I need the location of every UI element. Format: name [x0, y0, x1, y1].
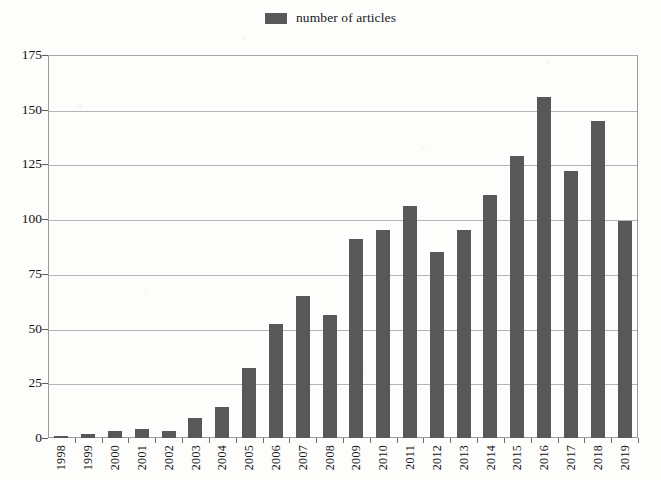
bar[interactable]: [403, 206, 417, 438]
x-tick-label: 2004: [215, 445, 230, 470]
bar-slot: [75, 55, 102, 438]
x-tick-label: 2014: [483, 445, 498, 470]
x-tick-mark: [477, 438, 478, 443]
x-tick-mark: [75, 438, 76, 443]
x-tick-mark: [638, 438, 639, 443]
bar[interactable]: [215, 407, 229, 438]
x-tick-label: 2008: [322, 445, 337, 470]
x-tick-mark: [370, 438, 371, 443]
x-tick-mark: [423, 438, 424, 443]
bar-slot: [182, 55, 209, 438]
x-tick-label: 2009: [349, 445, 364, 470]
bar-slot: [504, 55, 531, 438]
x-tick-mark: [397, 438, 398, 443]
bar-slot: [102, 55, 129, 438]
x-tick-mark: [584, 438, 585, 443]
bar-slot: [423, 55, 450, 438]
bar-slot: [397, 55, 424, 438]
y-tick-label: 50: [6, 321, 42, 337]
x-tick-mark: [289, 438, 290, 443]
bar[interactable]: [349, 239, 363, 438]
bar-slot: [477, 55, 504, 438]
legend-label: number of articles: [296, 10, 396, 26]
y-tick-mark: [42, 55, 48, 56]
y-tick-mark: [42, 438, 48, 439]
bar[interactable]: [591, 121, 605, 438]
x-tick-mark: [504, 438, 505, 443]
x-tick-mark: [450, 438, 451, 443]
bar[interactable]: [457, 230, 471, 438]
x-tick-label: 2007: [295, 445, 310, 470]
bar[interactable]: [188, 418, 202, 438]
x-tick-label: 2002: [161, 445, 176, 470]
bar[interactable]: [618, 221, 632, 438]
x-tick-mark: [558, 438, 559, 443]
bar-slot: [128, 55, 155, 438]
x-tick-mark: [128, 438, 129, 443]
x-tick-label: 2013: [456, 445, 471, 470]
x-tick-label: 2018: [590, 445, 605, 470]
bar[interactable]: [510, 156, 524, 438]
x-tick-mark: [263, 438, 264, 443]
y-tick-label: 125: [6, 156, 42, 172]
x-tick-label: 2012: [429, 445, 444, 470]
x-tick-label: 2005: [242, 445, 257, 470]
bar-slot: [316, 55, 343, 438]
bar-slot: [450, 55, 477, 438]
x-tick-mark: [611, 438, 612, 443]
x-tick-mark: [102, 438, 103, 443]
x-tick-mark: [531, 438, 532, 443]
bar-slot: [611, 55, 638, 438]
bar-slot: [289, 55, 316, 438]
bar-slot: [263, 55, 290, 438]
x-tick-label: 2011: [403, 445, 418, 470]
bar[interactable]: [537, 97, 551, 438]
bar[interactable]: [135, 429, 149, 438]
y-tick-label: 150: [6, 102, 42, 118]
bar[interactable]: [269, 324, 283, 438]
y-tick-mark: [42, 219, 48, 220]
x-tick-label: 2016: [537, 445, 552, 470]
y-tick-label: 75: [6, 266, 42, 282]
bar-slot: [531, 55, 558, 438]
bar-slot: [48, 55, 75, 438]
x-tick-label: 2010: [376, 445, 391, 470]
x-tick-mark: [155, 438, 156, 443]
x-tick-label: 2015: [510, 445, 525, 470]
y-tick-mark: [42, 274, 48, 275]
x-tick-mark: [316, 438, 317, 443]
bar-slot: [155, 55, 182, 438]
bar-slot: [236, 55, 263, 438]
bar[interactable]: [376, 230, 390, 438]
x-tick-label: 2001: [134, 445, 149, 470]
chart-legend: number of articles: [0, 10, 661, 26]
x-tick-label: 2000: [108, 445, 123, 470]
y-tick-mark: [42, 110, 48, 111]
bar[interactable]: [296, 296, 310, 438]
y-tick-label: 25: [6, 375, 42, 391]
x-tick-label: 2003: [188, 445, 203, 470]
bar-slot: [209, 55, 236, 438]
bar-slot: [343, 55, 370, 438]
legend-color-swatch: [265, 13, 287, 24]
bar[interactable]: [483, 195, 497, 438]
x-tick-label: 2019: [617, 445, 632, 470]
bar[interactable]: [242, 368, 256, 438]
x-tick-label: 1998: [54, 445, 69, 470]
bar-slot: [370, 55, 397, 438]
y-tick-mark: [42, 329, 48, 330]
x-tick-label: 1999: [81, 445, 96, 470]
x-tick-label: 2006: [268, 445, 283, 470]
y-tick-label: 0: [6, 430, 42, 446]
bar-slot: [584, 55, 611, 438]
x-tick-mark: [182, 438, 183, 443]
bar[interactable]: [564, 171, 578, 438]
bar[interactable]: [323, 315, 337, 438]
y-tick-label: 175: [6, 47, 42, 63]
x-tick-mark: [209, 438, 210, 443]
x-tick-mark: [343, 438, 344, 443]
bar-chart-figure: number of articles 199819992000200120022…: [0, 0, 661, 480]
bar[interactable]: [430, 252, 444, 438]
y-tick-mark: [42, 383, 48, 384]
y-tick-mark: [42, 164, 48, 165]
